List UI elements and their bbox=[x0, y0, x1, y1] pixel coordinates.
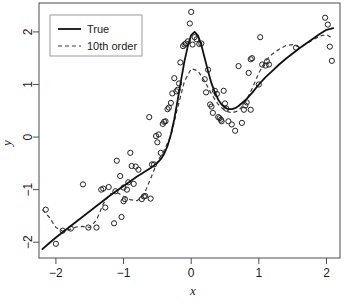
y-tick-label: −1 bbox=[21, 182, 35, 196]
legend-label-1: True bbox=[87, 23, 109, 35]
scatter-plot-svg: −2−1012−2−1012 True10th order x y bbox=[0, 0, 347, 302]
legend-label-2: 10th order bbox=[87, 40, 137, 52]
y-tick-label: 1 bbox=[21, 81, 35, 88]
x-tick-label: 0 bbox=[188, 266, 195, 280]
y-tick-label: 0 bbox=[21, 133, 35, 140]
x-tick-label: −1 bbox=[117, 266, 131, 280]
y-tick-label: −2 bbox=[21, 235, 35, 249]
chart-figure: −2−1012−2−1012 True10th order x y bbox=[0, 0, 347, 302]
y-axis-title: y bbox=[0, 140, 14, 148]
x-axis-title: x bbox=[189, 283, 196, 298]
x-tick-label: 1 bbox=[255, 266, 262, 280]
chart-legend[interactable]: True10th order bbox=[50, 15, 142, 56]
x-tick-label: −2 bbox=[49, 266, 63, 280]
y-tick-label: 2 bbox=[21, 28, 35, 35]
x-tick-label: 2 bbox=[323, 266, 330, 280]
